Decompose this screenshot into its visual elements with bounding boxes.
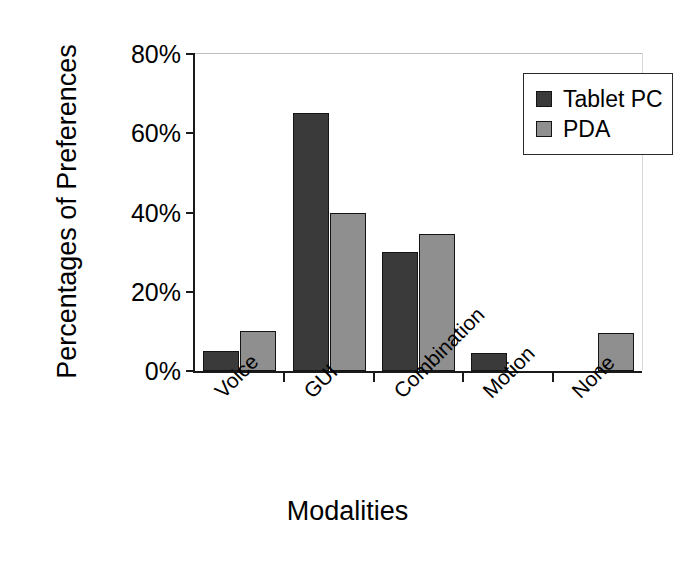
y-axis-tick [186,291,195,293]
x-axis-tick [283,372,285,382]
plot-top-rule [195,53,642,54]
legend-swatch-icon [536,91,552,107]
legend-item-tablet-pc: Tablet PC [536,84,660,114]
x-axis-tick [552,372,554,382]
legend-label: Tablet PC [563,88,663,111]
y-axis-tick-label: 60% [131,119,181,148]
x-axis-title: Modalities [0,496,695,527]
y-axis-tick [186,370,195,372]
chart-legend: Tablet PCPDA [523,73,673,155]
legend-item-pda: PDA [536,114,660,144]
y-axis-tick [186,212,195,214]
x-axis-tick [462,372,464,382]
bar-gui-pda [330,213,366,372]
y-axis-tick-label: 0% [145,357,181,386]
y-axis-tick-label: 80% [131,40,181,69]
y-axis-tick-label: 20% [131,277,181,306]
x-axis-tick [373,372,375,382]
bar-combination-tablet-pc [382,252,418,371]
y-axis-tick-label: 40% [131,198,181,227]
y-axis-tick [186,132,195,134]
y-axis-title: Percentages of Preferences [52,22,83,402]
legend-swatch-icon [536,121,552,137]
bar-gui-tablet-pc [293,113,329,371]
legend-label: PDA [563,118,610,141]
bar-chart: Percentages of Preferences 0%20%40%60%80… [0,0,695,561]
y-axis-tick [186,53,195,55]
